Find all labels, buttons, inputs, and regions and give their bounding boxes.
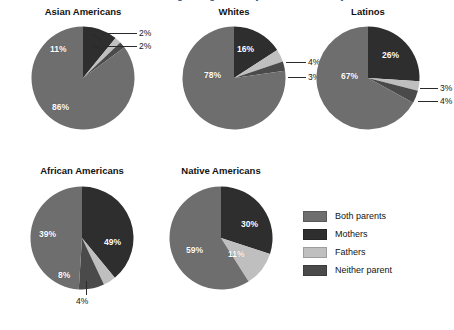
leader-line-latinos-fathers xyxy=(420,88,438,89)
callout-label-latinos-neither: 4% xyxy=(440,96,452,106)
legend-label-fathers: Fathers xyxy=(335,247,366,257)
slice-label-african-mothers: 39% xyxy=(39,229,56,239)
callout-label-african-fathers: 4% xyxy=(76,296,88,306)
chart-panel-whites: Whites 78% 16% 4% 3% xyxy=(160,6,310,146)
legend-item-mothers[interactable]: Mothers xyxy=(303,225,392,243)
chart-panel-native-americans: Native Americans 59% 30% 11% xyxy=(155,165,305,325)
chart-panel-african-americans: African Americans 49% 39% 8% 4% xyxy=(20,165,170,325)
legend-swatch-neither-parent xyxy=(303,265,327,276)
pie-native-americans xyxy=(165,182,277,294)
figure-banner-title: Children's Living Arrangements by Race a… xyxy=(0,0,454,1)
slice-label-asian-both: 86% xyxy=(52,102,69,112)
legend-item-fathers[interactable]: Fathers xyxy=(303,243,392,261)
chart-title-asian-americans: Asian Americans xyxy=(45,6,122,17)
legend-swatch-mothers xyxy=(303,229,327,240)
legend-label-neither-parent: Neither parent xyxy=(335,265,392,275)
callout-label-latinos-fathers: 3% xyxy=(440,83,452,93)
legend-label-both-parents: Both parents xyxy=(335,211,386,221)
legend: Both parents Mothers Fathers Neither par… xyxy=(303,207,392,279)
slice-label-native-mothers: 30% xyxy=(241,219,258,229)
pie-whites xyxy=(178,22,290,134)
pie-chart-figure: Children's Living Arrangements by Race a… xyxy=(0,0,454,330)
pie-latinos xyxy=(312,22,424,134)
slice-label-african-neither: 8% xyxy=(58,270,70,280)
legend-item-neither-parent[interactable]: Neither parent xyxy=(303,261,392,279)
chart-panel-latinos: Latinos 67% 26% 3% 4% xyxy=(300,6,454,146)
slice-label-whites-mothers: 16% xyxy=(237,44,254,54)
slice-label-african-both: 49% xyxy=(104,237,121,247)
slice-label-native-fathers: 11% xyxy=(228,249,245,259)
legend-swatch-both-parents xyxy=(303,211,327,222)
legend-item-both-parents[interactable]: Both parents xyxy=(303,207,392,225)
leader-line-latinos-neither xyxy=(418,101,438,102)
chart-title-whites: Whites xyxy=(218,6,249,17)
slice-label-latinos-mothers: 26% xyxy=(382,50,399,60)
slice-label-asian-mothers: 11% xyxy=(50,44,67,54)
chart-title-native-americans: Native Americans xyxy=(181,165,260,176)
callout-label-asian-neither: 2% xyxy=(139,41,151,51)
chart-title-latinos: Latinos xyxy=(351,6,385,17)
leader-line-asian-fathers xyxy=(101,33,137,34)
slice-label-whites-both: 78% xyxy=(204,70,221,80)
pie-asian-americans xyxy=(27,22,139,134)
slice-label-latinos-both: 67% xyxy=(341,71,358,81)
legend-swatch-fathers xyxy=(303,247,327,258)
leader-line-asian-neither xyxy=(103,46,137,47)
chart-panel-asian-americans: Asian Americans 86% 11% 2% 2% xyxy=(8,6,158,146)
legend-label-mothers: Mothers xyxy=(335,229,368,239)
chart-title-african-americans: African Americans xyxy=(40,165,124,176)
callout-label-asian-fathers: 2% xyxy=(139,28,151,38)
slice-label-native-both: 59% xyxy=(186,245,203,255)
leader-line-african-fathers xyxy=(86,281,87,295)
